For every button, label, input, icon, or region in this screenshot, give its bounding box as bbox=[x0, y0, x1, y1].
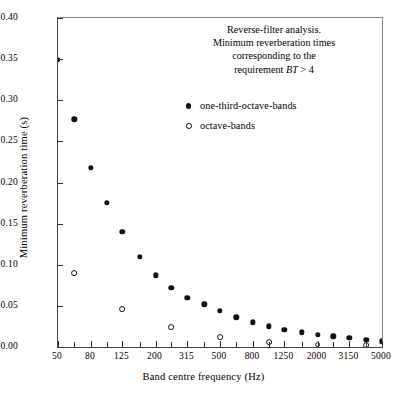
y-tick bbox=[58, 183, 63, 184]
x-tick-label: 2000 bbox=[307, 351, 327, 361]
x-tick-label: 3150 bbox=[339, 351, 359, 361]
annotation-line-3: corresponding to the bbox=[170, 49, 378, 62]
x-tick-label: 80 bbox=[85, 351, 95, 361]
x-tick bbox=[382, 341, 383, 347]
x-tick-minor bbox=[269, 342, 270, 347]
legend-label: octave-bands bbox=[200, 116, 255, 136]
x-tick-minor bbox=[171, 342, 172, 347]
data-point bbox=[185, 295, 190, 300]
y-tick-label: 0.35 bbox=[1, 53, 18, 63]
data-point bbox=[234, 315, 239, 320]
x-tick bbox=[91, 341, 92, 347]
data-point bbox=[137, 254, 142, 259]
legend-label: one-third-octave-bands bbox=[200, 96, 297, 116]
annotation-line-4-post: > 4 bbox=[298, 64, 314, 75]
x-axis-title: Band centre frequency (Hz) bbox=[0, 371, 407, 382]
y-tick bbox=[58, 18, 63, 19]
data-point bbox=[315, 332, 320, 337]
x-tick-label: 800 bbox=[245, 351, 260, 361]
x-tick-label: 500 bbox=[212, 351, 227, 361]
x-tick bbox=[318, 341, 319, 347]
x-tick-label: 1250 bbox=[274, 351, 294, 361]
x-tick-label: 125 bbox=[114, 351, 129, 361]
x-tick-minor bbox=[204, 342, 205, 347]
x-tick bbox=[253, 341, 254, 347]
x-tick-minor bbox=[366, 342, 367, 347]
data-point bbox=[168, 324, 174, 330]
x-tick bbox=[284, 341, 285, 347]
data-point bbox=[347, 335, 352, 340]
y-axis-title: Minimum reverberation time (s) bbox=[18, 73, 29, 303]
figure: Reverse-filter analysis. Minimum reverbe… bbox=[0, 0, 407, 396]
y-tick bbox=[58, 224, 63, 225]
x-tick-minor bbox=[74, 342, 75, 347]
y-tick-label: 0.40 bbox=[1, 12, 18, 22]
data-point bbox=[169, 285, 174, 290]
y-tick bbox=[58, 347, 63, 348]
data-point bbox=[153, 273, 158, 278]
plot-frame: Reverse-filter analysis. Minimum reverbe… bbox=[57, 17, 383, 348]
x-tick bbox=[122, 341, 123, 347]
x-tick-label: 50 bbox=[52, 351, 62, 361]
annotation-line-1: Reverse-filter analysis. bbox=[170, 23, 378, 36]
x-tick bbox=[220, 341, 221, 347]
chart-annotation: Reverse-filter analysis. Minimum reverbe… bbox=[170, 23, 378, 76]
data-point bbox=[120, 306, 126, 312]
x-tick-label: 315 bbox=[179, 351, 194, 361]
data-point bbox=[331, 334, 336, 339]
y-tick bbox=[58, 265, 63, 266]
y-tick-label: 0.05 bbox=[1, 300, 18, 310]
y-tick-label: 0.25 bbox=[1, 135, 18, 145]
data-point bbox=[217, 308, 222, 313]
data-point bbox=[88, 165, 93, 170]
x-tick-minor bbox=[302, 342, 303, 347]
x-tick bbox=[187, 341, 188, 347]
data-point bbox=[202, 302, 207, 307]
annotation-line-2: Minimum reverberation times bbox=[170, 36, 378, 49]
x-tick-label: 5000 bbox=[371, 351, 391, 361]
annotation-bt-symbol: BT bbox=[286, 64, 298, 75]
annotation-line-4: requirement BT > 4 bbox=[170, 63, 378, 76]
x-tick-minor bbox=[333, 342, 334, 347]
data-point bbox=[104, 200, 109, 205]
legend-item-one-third-octave-bands: one-third-octave-bands bbox=[186, 96, 297, 116]
data-point bbox=[217, 334, 223, 340]
y-tick bbox=[58, 306, 63, 307]
y-tick bbox=[58, 100, 63, 101]
y-tick-label: 0.15 bbox=[1, 218, 18, 228]
y-tick bbox=[58, 59, 63, 60]
x-tick-minor bbox=[140, 342, 141, 347]
x-tick-label: 200 bbox=[147, 351, 162, 361]
x-tick-minor bbox=[107, 342, 108, 347]
y-tick-label: 0.20 bbox=[1, 177, 18, 187]
y-tick-label: 0.00 bbox=[1, 341, 18, 351]
annotation-line-4-pre: requirement bbox=[234, 64, 286, 75]
data-point bbox=[299, 329, 304, 334]
data-point bbox=[120, 229, 125, 234]
data-point bbox=[71, 270, 77, 276]
y-tick-label: 0.30 bbox=[1, 94, 18, 104]
legend: one-third-octave-bands octave-bands bbox=[186, 96, 297, 136]
data-point bbox=[250, 320, 255, 325]
data-point bbox=[266, 324, 271, 329]
data-point bbox=[72, 116, 77, 121]
filled-circle-icon bbox=[186, 103, 200, 108]
legend-item-octave-bands: octave-bands bbox=[186, 116, 297, 136]
y-tick-label: 0.10 bbox=[1, 259, 18, 269]
x-tick-minor bbox=[236, 342, 237, 347]
x-tick bbox=[349, 341, 350, 347]
data-point bbox=[282, 327, 287, 332]
open-circle-icon bbox=[186, 123, 200, 129]
x-tick bbox=[156, 341, 157, 347]
y-tick bbox=[58, 141, 63, 142]
